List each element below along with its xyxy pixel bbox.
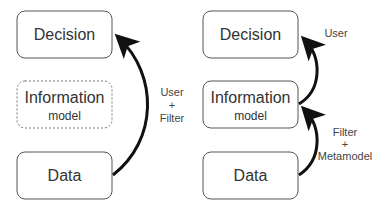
right-decision-label: Decision bbox=[220, 26, 281, 43]
right-edge-label-bottom-line2: + bbox=[342, 138, 348, 150]
right-edge-label-bottom-line1: Filter bbox=[333, 126, 358, 138]
left-decision-label: Decision bbox=[34, 26, 95, 43]
left-diagram: Decision Information model Data User + F… bbox=[17, 11, 185, 199]
right-information-subtitle: model bbox=[234, 109, 267, 123]
right-edge-label-top: User bbox=[324, 27, 348, 39]
right-information-title: Information bbox=[210, 89, 290, 106]
right-data-label: Data bbox=[234, 167, 268, 184]
left-edge-label-line1: User bbox=[160, 86, 184, 98]
right-edge-label-bottom-line3: Metamodel bbox=[318, 150, 372, 162]
right-diagram: Decision Information model Data User Fil… bbox=[203, 11, 372, 199]
left-information-subtitle: model bbox=[48, 109, 81, 123]
left-edge-label-line2: + bbox=[169, 99, 175, 111]
diagram-canvas: Decision Information model Data User + F… bbox=[0, 0, 385, 211]
left-data-label: Data bbox=[48, 167, 82, 184]
left-information-title: Information bbox=[24, 89, 104, 106]
left-arrow-data-to-decision bbox=[113, 38, 148, 175]
right-arrow-information-to-decision bbox=[299, 40, 317, 104]
left-edge-label-line3: Filter bbox=[160, 112, 185, 124]
right-arrow-data-to-information bbox=[299, 110, 317, 175]
